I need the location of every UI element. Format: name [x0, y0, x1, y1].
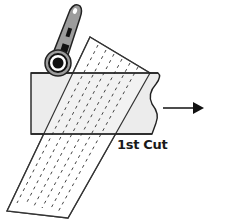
- step-label: 1st Cut: [117, 137, 167, 152]
- diagram-svg: [0, 0, 228, 221]
- direction-arrow: [163, 102, 204, 114]
- cutting-diagram: 1st Cut: [0, 0, 228, 221]
